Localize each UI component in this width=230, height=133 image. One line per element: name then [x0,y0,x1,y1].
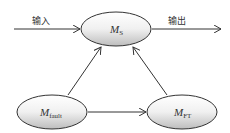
input-label: 输入 [32,15,50,26]
node-mfault: Mfault [17,95,87,129]
edge-mfault-to-ms [68,47,101,95]
edge-mft-to-ms [133,47,167,95]
node-mft-sub: FT [183,112,192,120]
node-ms: MS [81,12,151,46]
node-mft: MFT [147,95,217,129]
output-label: 输出 [168,15,186,26]
node-mfault-sub: fault [49,112,62,120]
diagram-canvas: 输入 输出 MS Mfault MFT [0,0,230,133]
node-ms-sub: S [119,29,123,37]
